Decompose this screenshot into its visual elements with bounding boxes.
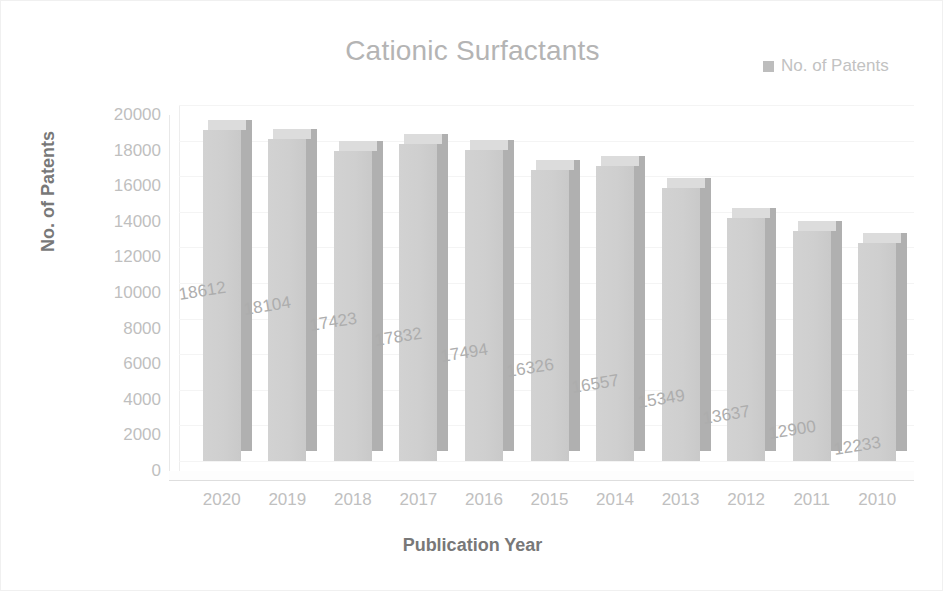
bar-front-face	[268, 139, 306, 461]
x-axis-title: Publication Year	[1, 535, 943, 556]
bar-front-face	[531, 170, 569, 461]
chart-legend: No. of Patents	[763, 56, 889, 76]
bar-side-face	[437, 134, 448, 451]
x-axis-tick-label: 2015	[531, 490, 569, 510]
bar[interactable]	[203, 130, 241, 461]
bar-top-face	[667, 178, 705, 188]
y-axis-title: No. of Patents	[38, 102, 59, 282]
bar[interactable]	[662, 188, 700, 461]
y-axis-tick-label: 18000	[91, 141, 161, 161]
chart-side-wall	[169, 115, 179, 471]
bar-top-face	[798, 221, 836, 231]
bar[interactable]	[334, 151, 372, 461]
bar-side-face	[503, 140, 514, 451]
bar-front-face	[858, 243, 896, 461]
y-axis-tick-label: 20000	[91, 105, 161, 125]
bar[interactable]	[727, 218, 765, 461]
bar-side-face	[831, 221, 842, 451]
bar-side-face	[896, 233, 907, 451]
bar-front-face	[596, 166, 634, 461]
bar-side-face	[241, 120, 252, 451]
bar[interactable]	[399, 144, 437, 461]
x-axis-tick-label: 2016	[465, 490, 503, 510]
bar-top-face	[339, 141, 377, 151]
x-axis-tick-label: 2018	[334, 490, 372, 510]
x-axis-tick-label: 2012	[727, 490, 765, 510]
bar-top-face	[863, 233, 901, 243]
y-axis-tick-labels: 0200040006000800010000120001400016000180…	[89, 105, 161, 471]
y-axis-tick-label: 12000	[91, 247, 161, 267]
bar[interactable]	[465, 150, 503, 461]
bar-side-face	[306, 129, 317, 451]
bar[interactable]	[268, 139, 306, 461]
bar-top-face	[470, 140, 508, 150]
x-axis-tick-label: 2017	[399, 490, 437, 510]
x-axis-tick-label: 2010	[858, 490, 896, 510]
legend-square-icon	[763, 61, 774, 72]
bar-front-face	[793, 231, 831, 461]
x-axis-tick-label: 2011	[793, 490, 830, 510]
plot-area	[169, 105, 914, 471]
bar-top-face	[208, 120, 246, 130]
bar-front-face	[399, 144, 437, 461]
y-axis-tick-label: 16000	[91, 176, 161, 196]
bar[interactable]	[793, 231, 831, 461]
bar-top-face	[404, 134, 442, 144]
chart-container: Cationic Surfactants No. of Patents No. …	[0, 0, 943, 591]
bar-top-face	[536, 160, 574, 170]
y-axis-tick-label: 8000	[91, 319, 161, 339]
y-axis-tick-label: 0	[91, 461, 161, 481]
x-axis-tick-label: 2014	[596, 490, 634, 510]
bar-front-face	[203, 130, 241, 461]
y-axis-tick-label: 14000	[91, 212, 161, 232]
y-axis-tick-label: 10000	[91, 283, 161, 303]
bar-front-face	[662, 188, 700, 461]
legend-label: No. of Patents	[781, 56, 889, 76]
bar-top-face	[732, 208, 770, 218]
bar-side-face	[634, 156, 645, 451]
bar-top-face	[601, 156, 639, 166]
category-axis-line	[169, 480, 914, 481]
x-axis-tick-labels: 2020201920182017201620152014201320122011…	[169, 490, 914, 514]
y-axis-tick-label: 6000	[91, 354, 161, 374]
bar-front-face	[727, 218, 765, 461]
gridline	[179, 105, 914, 106]
bar-side-face	[700, 178, 711, 451]
x-axis-tick-label: 2013	[662, 490, 700, 510]
bar-side-face	[569, 160, 580, 451]
bar[interactable]	[531, 170, 569, 461]
bar[interactable]	[596, 166, 634, 461]
gridline	[179, 461, 914, 462]
bar-front-face	[334, 151, 372, 461]
bar[interactable]	[858, 243, 896, 461]
x-axis-tick-label: 2019	[268, 490, 306, 510]
y-axis-tick-label: 4000	[91, 390, 161, 410]
bar-side-face	[765, 208, 776, 451]
bar-side-face	[372, 141, 383, 451]
x-axis-tick-label: 2020	[203, 490, 241, 510]
bar-top-face	[273, 129, 311, 139]
y-axis-tick-label: 2000	[91, 425, 161, 445]
bar-front-face	[465, 150, 503, 461]
